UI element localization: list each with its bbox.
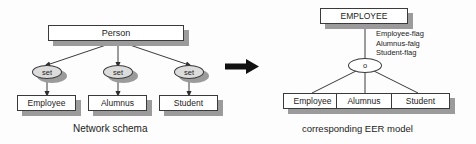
eer-employee-box[interactable]: Employee — [283, 93, 342, 109]
network-student-box[interactable]: Student — [159, 95, 218, 111]
network-employee-label: Employee — [28, 98, 66, 108]
network-employee-box[interactable]: Employee — [17, 95, 76, 111]
eer-employee-label: Employee — [294, 96, 332, 106]
set-ellipse-3[interactable]: set — [174, 65, 204, 79]
network-schema-caption: Network schema — [73, 123, 147, 134]
person-box[interactable]: Person — [48, 25, 184, 41]
person-box-label: Person — [102, 28, 131, 38]
eer-student-label: Student — [406, 96, 435, 106]
network-alumnus-box[interactable]: Alumnus — [88, 95, 147, 111]
specialization-circle-label: o — [363, 61, 367, 70]
attribute-flag-student: Student-flag — [376, 48, 424, 58]
eer-student-box[interactable]: Student — [391, 93, 450, 109]
set-ellipse-2-label: set — [113, 68, 123, 77]
attribute-flag-list: Employee-flag Alumnus-falg Student-flag — [376, 29, 424, 58]
eer-alumnus-label: Alumnus — [347, 96, 380, 106]
attribute-flag-employee: Employee-flag — [376, 29, 424, 39]
eer-model-caption: corresponding EER model — [302, 123, 413, 134]
set-ellipse-1[interactable]: set — [32, 65, 62, 79]
specialization-circle[interactable]: o — [348, 58, 382, 73]
eer-alumnus-box[interactable]: Alumnus — [336, 93, 392, 109]
set-ellipse-1-label: set — [42, 68, 52, 77]
set-ellipse-3-label: set — [184, 68, 194, 77]
diagram-canvas: Person set set set Employee Alumnus Stud… — [0, 0, 476, 144]
right-arrow-icon — [225, 59, 259, 74]
employee-superclass-box[interactable]: EMPLOYEE — [320, 8, 408, 24]
employee-superclass-label: EMPLOYEE — [341, 11, 388, 21]
network-student-label: Student — [174, 98, 203, 108]
set-ellipse-2[interactable]: set — [103, 65, 133, 79]
attribute-flag-alumnus: Alumnus-falg — [376, 39, 424, 49]
network-alumnus-label: Alumnus — [101, 98, 134, 108]
